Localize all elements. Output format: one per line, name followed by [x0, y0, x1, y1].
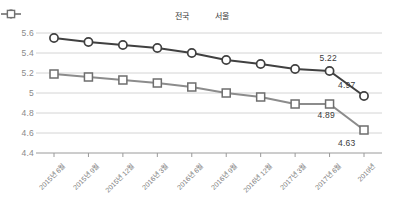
x-axis-tick-label: 2015년 6월	[36, 161, 67, 192]
data-point-value-label: 4.97	[338, 80, 355, 90]
x-axis-tick-label: 2017년 6월	[312, 161, 343, 192]
x-axis-tick-label: 2016년 3월	[140, 161, 171, 192]
x-axis-tick-label: 2016년 9월	[209, 161, 240, 192]
x-axis-tick-label: 2019년	[355, 161, 377, 183]
line-chart: 전국 서울 5.65.45.254.84.64.4 2015년 6월2015년 …	[0, 0, 404, 217]
x-axis-tick-label: 2015년 9월	[71, 161, 102, 192]
data-point-value-label: 5.22	[320, 53, 337, 63]
x-axis: 2015년 6월2015년 9월2015년 12월2016년 3월2016년 6…	[0, 0, 404, 217]
x-axis-tick-label: 2015년 12월	[102, 161, 135, 194]
data-point-value-label: 4.63	[338, 138, 355, 148]
x-axis-tick-label: 2016년 12월	[240, 161, 273, 194]
x-axis-tick-label: 2017년 3월	[277, 161, 308, 192]
x-axis-tick-label: 2016년 6월	[174, 161, 205, 192]
data-point-value-label: 4.89	[318, 110, 335, 120]
